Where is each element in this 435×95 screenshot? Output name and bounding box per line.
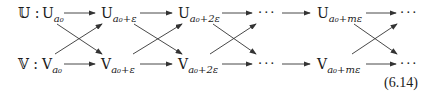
node-U-a0-2eps: Ua₀+2ε bbox=[178, 6, 220, 26]
equation-number: (6.14) bbox=[384, 75, 418, 91]
row-label-V: 𝕍 : bbox=[18, 57, 38, 71]
node-V-a0-meps: Va₀+mε bbox=[317, 57, 360, 77]
node-U-a0-eps: Ua₀+ε bbox=[101, 6, 137, 26]
node-U-a0-meps: Ua₀+mε bbox=[317, 6, 362, 26]
row-label-U: 𝕌 : bbox=[18, 6, 39, 20]
ellipsis-bottom-2: ··· bbox=[400, 57, 418, 71]
node-U-a0: Ua₀ bbox=[42, 6, 64, 26]
ellipsis-top-2: ··· bbox=[400, 6, 418, 20]
node-V-a0-2eps: Va₀+2ε bbox=[178, 57, 218, 77]
node-V-a0: Va₀ bbox=[42, 57, 62, 77]
ellipsis-top-1: ··· bbox=[258, 6, 276, 20]
node-V-a0-eps: Va₀+ε bbox=[101, 57, 135, 77]
ellipsis-bottom-1: ··· bbox=[258, 57, 276, 71]
